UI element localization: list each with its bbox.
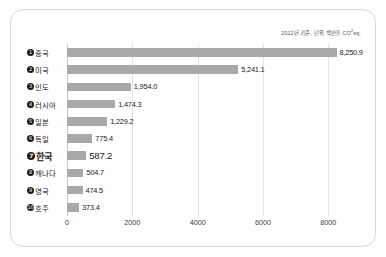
bar-row: 5일본1,229.2 (27, 113, 361, 130)
rank-badge-icon: 10 (27, 204, 34, 211)
bar-track: 8,250.9 (67, 44, 363, 61)
bar (67, 203, 79, 212)
country-name: 영국 (35, 185, 49, 196)
bar-label-미국: 2미국 (27, 64, 67, 75)
bar-row: 6독일775.4 (27, 130, 361, 147)
bar-label-한국: 7한국 (27, 149, 67, 163)
bar-label-일본: 5일본 (27, 116, 67, 127)
bar (67, 151, 86, 160)
x-tick-label-4000: 4000 (190, 218, 206, 227)
bar (67, 83, 131, 92)
bar-label-영국: 9영국 (27, 185, 67, 196)
country-name: 캐나다 (35, 167, 55, 178)
rank-badge-icon: 5 (27, 118, 34, 125)
bar-label-독일: 6독일 (27, 133, 67, 144)
bar-value-label: 5,241.1 (241, 65, 264, 74)
unit-note-prefix: 2012년 기준, 단위 백만톤 CO (281, 30, 350, 36)
rank-badge-icon: 1 (27, 49, 34, 56)
rank-badge-icon: 3 (27, 83, 34, 90)
x-tick-label-6000: 6000 (255, 218, 271, 227)
bar-value-label: 504.7 (86, 168, 104, 177)
bar-value-label: 1,954.0 (134, 82, 157, 91)
bar-track: 1,954.0 (67, 78, 361, 95)
rank-badge-icon: 8 (27, 169, 34, 176)
bar (67, 117, 107, 126)
bar-track: 1,474.3 (67, 96, 361, 113)
bar (67, 100, 115, 109)
bar-value-label: 1,229.2 (110, 117, 133, 126)
rank-badge-icon: 4 (27, 101, 34, 108)
bar-label-인도: 3인도 (27, 81, 67, 92)
bar (67, 186, 83, 195)
x-axis: 02000400060008000 (67, 218, 361, 232)
bar-value-label: 775.4 (95, 134, 113, 143)
bar-track: 587.2 (67, 147, 361, 164)
country-name: 한국 (36, 149, 52, 163)
bar (67, 134, 92, 143)
chart-panel: 2012년 기준, 단위 백만톤 CO2eq. 1중국8,250.92미국5,2… (10, 9, 376, 247)
country-name: 호주 (35, 202, 49, 213)
bar-value-label: 373.4 (82, 203, 100, 212)
bar-value-label: 474.5 (86, 186, 104, 195)
country-name: 일본 (35, 116, 49, 127)
bar-row: 4러시아1,474.3 (27, 96, 361, 113)
bar-track: 474.5 (67, 182, 361, 199)
rank-badge-icon: 6 (27, 135, 34, 142)
chart-unit-note: 2012년 기준, 단위 백만톤 CO2eq. (281, 28, 361, 37)
rank-badge-icon: 9 (27, 187, 34, 194)
bar-chart-plot: 1중국8,250.92미국5,241.13인도1,954.04러시아1,474.… (27, 44, 361, 222)
country-name: 중국 (35, 47, 49, 58)
bar-value-label: 1,474.3 (118, 100, 141, 109)
bar-row: 8캐나다504.7 (27, 164, 361, 181)
bar-row: 2미국5,241.1 (27, 61, 361, 78)
bar (67, 169, 83, 178)
country-name: 인도 (35, 81, 49, 92)
bar-value-label: 587.2 (89, 150, 112, 161)
country-name: 독일 (35, 133, 49, 144)
bar-track: 775.4 (67, 130, 361, 147)
bar-label-캐나다: 8캐나다 (27, 167, 67, 178)
bar-value-label: 8,250.9 (340, 48, 363, 57)
bar-row: 3인도1,954.0 (27, 78, 361, 95)
bar-label-러시아: 4러시아 (27, 99, 67, 110)
x-tick-label-0: 0 (65, 218, 69, 227)
rank-badge-icon: 7 (27, 152, 35, 160)
bar-row: 7한국587.2 (27, 147, 361, 164)
bar-track: 5,241.1 (67, 61, 361, 78)
bar-row: 9영국474.5 (27, 182, 361, 199)
unit-note-suffix: eq. (353, 30, 361, 36)
bar-track: 1,229.2 (67, 113, 361, 130)
country-name: 미국 (35, 64, 49, 75)
x-tick-label-2000: 2000 (124, 218, 140, 227)
bar-track: 373.4 (67, 199, 361, 216)
bar (67, 65, 238, 74)
bar-track: 504.7 (67, 164, 361, 181)
bar-label-중국: 1중국 (27, 47, 67, 58)
bar-row: 10호주373.4 (27, 199, 361, 216)
x-tick-label-8000: 8000 (320, 218, 336, 227)
country-name: 러시아 (35, 99, 55, 110)
bar (67, 48, 337, 57)
bar-row: 1중국8,250.9 (27, 44, 361, 61)
bar-label-호주: 10호주 (27, 202, 67, 213)
rank-badge-icon: 2 (27, 66, 34, 73)
